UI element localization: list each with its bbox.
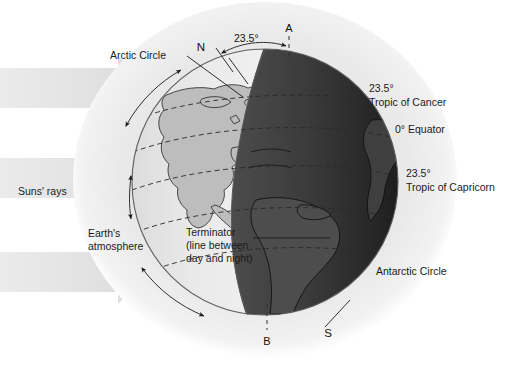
label-north-pole: N	[197, 41, 205, 53]
label-earths-atmosphere-line2: atmosphere	[88, 240, 144, 252]
label-equator: 0° Equator	[395, 123, 445, 135]
label-arctic-circle: Arctic Circle	[110, 49, 166, 61]
label-south-pole: S	[324, 327, 332, 339]
label-suns-rays: Suns' rays	[18, 185, 67, 197]
label-terminator-line1: Terminator	[186, 226, 236, 238]
label-tilt-angle: 23.5°	[234, 32, 259, 44]
earth-diagram: Arctic Circle 23.5° N A B S 23.5° Tropic…	[0, 0, 514, 368]
label-axis-point-b: B	[263, 335, 270, 347]
label-antarctic-circle: Antarctic Circle	[376, 265, 447, 277]
label-tropic-of-cancer-angle: 23.5°	[369, 82, 394, 94]
diagram-canvas: Arctic Circle 23.5° N A B S 23.5° Tropic…	[0, 0, 514, 368]
label-terminator-line2: (line between	[186, 239, 249, 251]
label-tropic-of-cancer: Tropic of Cancer	[369, 96, 447, 108]
label-tropic-of-capricorn: Tropic of Capricorn	[406, 181, 495, 193]
label-earths-atmosphere-line1: Earth's	[88, 227, 120, 239]
label-tropic-of-capricorn-angle: 23.5°	[406, 167, 431, 179]
label-axis-point-a: A	[285, 22, 293, 34]
label-terminator-line3: day and night)	[186, 252, 253, 264]
